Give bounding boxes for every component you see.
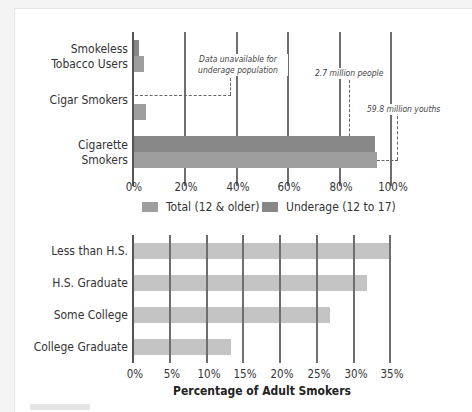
bar-cigarette-underage xyxy=(133,136,375,152)
bar-less-than-hs xyxy=(133,243,389,259)
tick-60: 60% xyxy=(278,180,301,194)
tick-20: 20% xyxy=(175,180,198,194)
tick-b-35: 35% xyxy=(381,367,404,381)
legend-swatch-underage xyxy=(262,202,278,212)
bottom-x-axis-label: Percentage of Adult Smokers xyxy=(173,384,351,398)
leader-unavailable-h xyxy=(135,95,231,96)
gridline-10 xyxy=(206,235,208,363)
note-youths: 59.8 million youths xyxy=(367,104,437,115)
cat-some-college: Some College xyxy=(20,308,128,323)
cat-smokeless: Smokeless Tobacco Users xyxy=(20,42,128,72)
note-unavailable: Data unavailable for underage population xyxy=(188,54,288,76)
leader-youths-v xyxy=(397,116,398,160)
legend-swatch-total xyxy=(142,202,158,212)
tick-b-30: 30% xyxy=(345,367,368,381)
legend-total: Total (12 & older) xyxy=(142,200,259,214)
gridline-15 xyxy=(242,235,244,363)
tick-b-20: 20% xyxy=(271,367,294,381)
tick-40: 40% xyxy=(227,180,250,194)
cat-less-than-hs: Less than H.S. xyxy=(20,244,128,259)
tick-b-25: 25% xyxy=(308,367,331,381)
bar-cigar-total xyxy=(133,104,146,120)
tick-0: 0% xyxy=(126,180,142,194)
cat-college-graduate: College Graduate xyxy=(20,340,128,355)
bar-college-graduate xyxy=(133,339,231,355)
gridline-5 xyxy=(169,235,171,363)
tick-b-5: 5% xyxy=(164,367,180,381)
cat-cigarette: Cigarette Smokers xyxy=(20,138,128,168)
bar-smokeless-total xyxy=(133,56,144,72)
cat-hs-graduate: H.S. Graduate xyxy=(20,276,128,291)
tick-b-15: 15% xyxy=(234,367,257,381)
gridline-25 xyxy=(316,235,318,363)
gridline-35 xyxy=(389,235,391,363)
tick-80: 80% xyxy=(330,180,353,194)
bottom-y-axis xyxy=(132,235,134,363)
note-people: 2.7 million people xyxy=(315,68,381,79)
bar-cigarette-total xyxy=(133,152,377,168)
legend-underage: Underage (12 to 17) xyxy=(262,200,396,214)
tick-100: 100% xyxy=(378,180,408,194)
leader-unavailable-v xyxy=(230,78,231,95)
tick-b-10: 10% xyxy=(198,367,221,381)
gridline-30 xyxy=(353,235,355,363)
bar-some-college xyxy=(133,307,330,323)
tick-b-0: 0% xyxy=(127,367,143,381)
gridline-20b xyxy=(279,235,281,363)
cat-cigar: Cigar Smokers xyxy=(20,93,128,108)
cut-off-caption xyxy=(30,404,90,410)
leader-youths-h xyxy=(377,160,398,161)
top-y-axis xyxy=(132,32,134,186)
